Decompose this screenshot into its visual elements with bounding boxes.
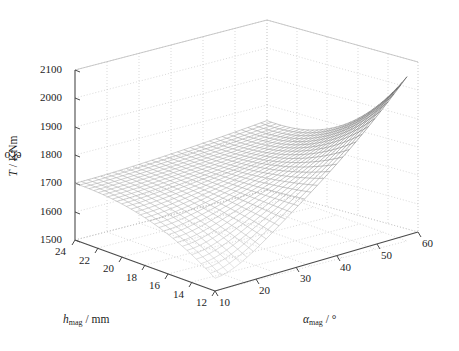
figure-3d-surface-plot: 2100 2000 1900 1800 1700 1600 1500 24 22… [0,0,459,351]
y-tick-label: 40 [340,261,351,273]
y-tick-label: 10 [219,296,230,308]
z-tick-marks [75,70,80,242]
x-tick-label: 14 [173,288,184,300]
y-tick-marks [215,232,421,296]
z-tick-label: 1700 [40,176,62,188]
x-tick-label: 20 [103,262,114,274]
x-tick-label: 16 [149,279,160,291]
y-tick-label: 50 [381,249,392,261]
z-axis-label: Tel,o / KNm [6,108,20,204]
y-axis-line [215,232,418,291]
y-tick-label: 20 [259,284,270,296]
z-tick-label: 1800 [40,148,62,160]
z-tick-label: 2100 [40,63,62,75]
x-tick-label: 22 [79,254,90,266]
x-tick-label: 12 [196,296,207,308]
z-axis-label-text: Tel,o / KNm [7,136,19,177]
z-tick-label: 1500 [40,233,62,245]
z-tick-label: 1900 [40,120,62,132]
x-tick-label: 18 [126,271,137,283]
surface-mesh [75,77,407,279]
z-tick-label: 1600 [40,205,62,217]
y-tick-label: 60 [422,237,433,249]
z-tick-label: 2000 [40,91,62,103]
x-tick-label: 24 [55,245,66,257]
y-tick-label: 30 [300,272,311,284]
y-axis-label: αmag / ° [303,313,336,327]
x-axis-label: hmag / mm [63,313,109,327]
